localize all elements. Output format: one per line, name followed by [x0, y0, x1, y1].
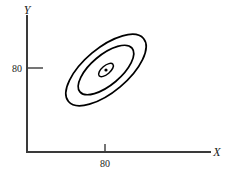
center-point-marker: [104, 68, 107, 71]
plot-canvas: Y X 80 80: [0, 0, 230, 173]
x-tick-label-80: 80: [100, 158, 110, 169]
x-axis-label: X: [212, 145, 221, 159]
y-axis-label: Y: [24, 3, 32, 17]
y-tick-label-80: 80: [12, 63, 22, 74]
contour-plot-figure: Y X 80 80: [0, 0, 230, 173]
